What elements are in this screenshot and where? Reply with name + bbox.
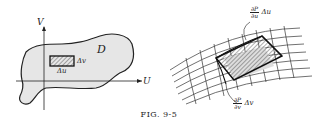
right-panel: [170, 22, 312, 104]
figure-caption: FIG. 9-5: [0, 110, 318, 119]
partial-u-denominator: ∂u: [251, 13, 258, 19]
delta-u-label: Δu: [57, 68, 67, 75]
u-axis-label: U: [143, 77, 151, 86]
region-label: D: [97, 44, 106, 55]
region-d: [20, 34, 134, 104]
partial-v-suffix: Δv: [244, 99, 253, 107]
left-panel: [16, 26, 142, 110]
delta-rect: [50, 56, 74, 66]
partial-u-suffix: Δu: [261, 8, 271, 16]
partial-u-annotation: ∂P∂u Δu: [250, 6, 271, 19]
v-axis-label: V: [37, 18, 44, 27]
delta-v-label: Δv: [77, 58, 86, 65]
partial-v-annotation: ∂P∂v Δv: [233, 97, 253, 110]
